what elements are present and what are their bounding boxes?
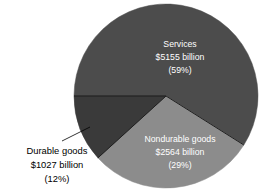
slice-label-durable: Durable goods $1027 billion (12%)	[27, 145, 88, 184]
slice-label-durable-value: $1027 billion	[31, 159, 84, 170]
pie-chart-canvas: Services $5155 billion (59%) Nondurable …	[0, 0, 272, 196]
slice-label-durable-percent: (12%)	[44, 173, 69, 184]
slice-label-services-value: $5155 billion	[156, 52, 205, 62]
slice-label-durable-name: Durable goods	[27, 145, 88, 156]
pie-chart-figure: Services $5155 billion (59%) Nondurable …	[0, 0, 272, 196]
slice-label-nondurable-percent: (29%)	[168, 160, 191, 170]
slice-label-nondurable-value: $2564 billion	[156, 147, 205, 157]
slice-label-nondurable-name: Nondurable goods	[144, 134, 216, 144]
slice-label-services-name: Services	[163, 39, 197, 49]
slice-label-services-percent: (59%)	[168, 65, 191, 75]
